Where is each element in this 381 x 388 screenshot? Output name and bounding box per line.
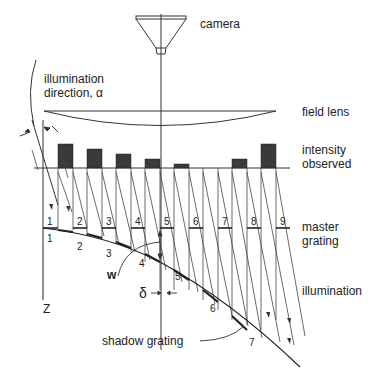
master-grating-label-2: grating — [302, 234, 339, 248]
shadow-number: 2 — [77, 241, 83, 252]
shadow-number: 6 — [210, 303, 216, 314]
shadow-number: 5 — [175, 271, 181, 282]
master-number: 2 — [77, 216, 83, 227]
intensity-observed-label-2: observed — [302, 157, 351, 171]
illumination-direction-label-2: direction, α — [44, 86, 103, 100]
master-number: 6 — [193, 216, 199, 227]
illumination-label: illumination — [302, 284, 362, 298]
master-number: 1 — [47, 216, 53, 227]
master-number: 5 — [164, 216, 170, 227]
master-number: 8 — [251, 216, 257, 227]
delta-dimension — [151, 291, 177, 295]
camera-label: camera — [200, 17, 240, 31]
shadow-number: 1 — [47, 233, 53, 244]
shadow-number: 3 — [106, 248, 112, 259]
shadow-number: 4 — [139, 258, 145, 269]
shadow-grating-leader — [200, 326, 244, 341]
master-number: 3 — [106, 216, 112, 227]
master-number: 7 — [222, 216, 228, 227]
intensity-observed-label-1: intensity — [302, 143, 346, 157]
shadow-grating-label: shadow grating — [102, 334, 183, 348]
delta-label: δ — [139, 286, 147, 300]
master-number: 4 — [135, 216, 141, 227]
w-label: w — [107, 268, 116, 282]
w-dimension — [118, 231, 162, 276]
master-number: 9 — [280, 216, 286, 227]
illumination-direction-label-1: illumination — [44, 72, 104, 86]
moire-diagram — [0, 0, 381, 388]
field-lens-label: field lens — [302, 105, 349, 119]
z-label: Z — [43, 302, 50, 316]
field-lens — [44, 111, 276, 126]
shadow-number: 7 — [249, 337, 255, 348]
grating-vertical-lines — [58, 168, 276, 330]
intensity-bars — [58, 144, 276, 168]
master-grating-label-1: master — [302, 220, 339, 234]
